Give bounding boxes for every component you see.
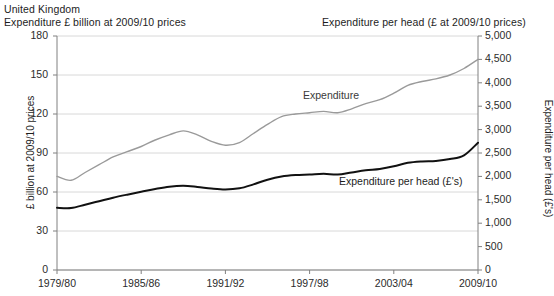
right-axis-tick-label: 1,500 [485,194,529,204]
right-axis-tick-label: 0 [485,264,529,274]
left-axis-tick-label: 150 [14,69,48,79]
left-axis-tick-label: 90 [14,147,48,157]
series-label-per-head: Expenditure per head (£'s) [339,175,462,187]
x-axis-tick-label: 1991/92 [190,278,260,288]
left-axis-tick-label: 60 [14,186,48,196]
left-axis-tick-label: 0 [14,264,48,274]
left-axis-tick-label: 30 [14,225,48,235]
right-axis-tick-label: 4,500 [485,53,529,63]
right-axis-tick-label: 2,500 [485,147,529,157]
right-axis-tick-label: 3,500 [485,100,529,110]
right-axis-tick-label: 2,000 [485,170,529,180]
x-axis-tick-label: 2003/04 [359,278,429,288]
series-label-expenditure: Expenditure [303,89,359,101]
x-axis-tick-label: 1997/98 [275,278,345,288]
right-axis-tick-label: 3,000 [485,124,529,134]
x-axis-tick-label: 1985/86 [106,278,176,288]
right-axis-tick-label: 1,000 [485,217,529,227]
right-axis-tick-label: 4,000 [485,77,529,87]
x-axis-tick-label: 1979/80 [22,278,92,288]
right-axis-tick-label: 5,000 [485,30,529,40]
right-axis-tick-label: 500 [485,241,529,251]
left-axis-tick-label: 180 [14,30,48,40]
x-axis-tick-label: 2009/10 [443,278,513,288]
left-axis-tick-label: 120 [14,108,48,118]
